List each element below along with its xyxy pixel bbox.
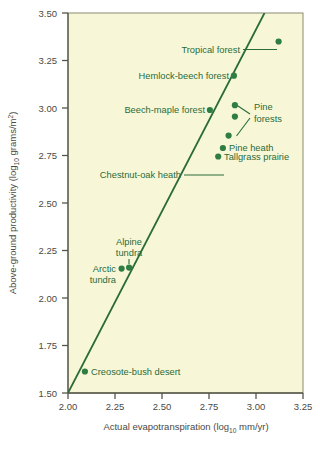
x-tick-label-0: 2.00 — [59, 401, 78, 412]
y-tick-label-1: 1.75 — [39, 340, 58, 351]
data-point-chestnut-oak-heath — [226, 133, 232, 139]
y-tick-label-8: 3.50 — [39, 8, 58, 19]
label-pine-forests-line1: Pine — [254, 102, 273, 112]
y-tick-label-4: 2.50 — [39, 198, 58, 209]
y-tick-label-6: 3.00 — [39, 103, 58, 114]
chart-figure: 3.50 3.25 3.00 2.75 2.50 2.25 2.00 1.75 … — [0, 0, 320, 452]
y-tick-label-2: 2.00 — [39, 293, 58, 304]
data-point-pine-forest-1 — [232, 102, 238, 108]
y-tick-label-3: 2.25 — [39, 245, 58, 256]
x-tick-label-3: 2.75 — [200, 401, 219, 412]
x-tick-label-4: 3.00 — [247, 401, 266, 412]
label-alpine-tundra-line2: tundra — [116, 248, 143, 258]
data-point-arctic-tundra — [119, 266, 125, 272]
x-tick-label-1: 2.25 — [106, 401, 125, 412]
label-hemlock-beech-forest: Hemlock-beech forest — [139, 71, 230, 81]
y-tick-label-7: 3.25 — [39, 55, 58, 66]
label-alpine-tundra-line1: Alpine — [116, 237, 142, 247]
y-tick-label-0: 1.50 — [39, 388, 58, 399]
x-axis-title-main: Actual evapotranspiration (log — [103, 421, 229, 432]
data-point-alpine-tundra — [126, 265, 132, 271]
data-point-creosote-bush-desert — [82, 368, 88, 374]
data-point-tropical-forest — [276, 38, 282, 44]
label-arctic-tundra-line2: tundra — [90, 275, 117, 285]
data-point-pine-heath — [220, 145, 226, 151]
y-axis-title-mid: grams/m — [7, 118, 18, 158]
data-point-pine-forest-2 — [232, 114, 238, 120]
label-beech-maple-forest: Beech-maple forest — [124, 105, 205, 115]
label-pine-forests-line2: forests — [254, 114, 282, 124]
x-axis-title: Actual evapotranspiration (log10 mm/yr) — [103, 421, 268, 434]
x-axis-title-tail: mm/yr) — [236, 421, 268, 432]
data-point-hemlock-beech-forest — [231, 73, 237, 79]
label-tropical-forest: Tropical forest — [181, 45, 240, 55]
label-tallgrass-prairie: Tallgrass prairie — [224, 152, 289, 162]
label-arctic-tundra-line1: Arctic — [93, 264, 117, 274]
label-creosote-bush-desert: Creosote-bush desert — [91, 367, 181, 377]
y-axis-title-tail: ) — [7, 112, 18, 115]
label-chestnut-oak-heath: Chestnut-oak heath — [100, 170, 181, 180]
x-tick-label-2: 2.50 — [153, 401, 172, 412]
y-axis-title-main: Above-ground productivity (log — [7, 165, 18, 294]
x-tick-label-5: 3.25 — [294, 401, 313, 412]
data-point-tallgrass-prairie — [215, 153, 221, 159]
data-point-beech-maple-forest — [207, 107, 213, 113]
y-tick-label-5: 2.75 — [39, 150, 58, 161]
y-axis-title: Above-ground productivity (log10 grams/m… — [7, 112, 20, 295]
plot-area-background — [68, 13, 303, 393]
